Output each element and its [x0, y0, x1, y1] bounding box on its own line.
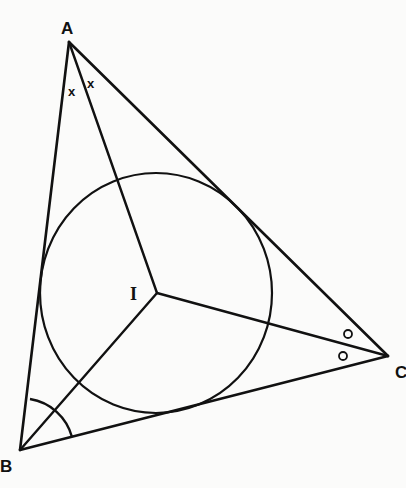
angle-mark-a-1: x [68, 84, 76, 99]
vertex-label-b: B [0, 457, 12, 476]
bisector-b [20, 293, 157, 450]
angle-mark-c-1 [344, 330, 352, 338]
triangle-sides [20, 42, 388, 450]
angle-bisectors [20, 42, 388, 450]
vertex-label-c: C [395, 363, 406, 382]
angle-mark-c-2 [339, 352, 347, 360]
triangle-incircle-diagram: x x A B C I [0, 0, 406, 488]
vertex-label-a: A [61, 19, 73, 38]
bisector-a [69, 42, 157, 293]
incentre-label-i: I [130, 284, 137, 304]
angle-mark-a-2: x [87, 76, 95, 91]
side-ab [20, 42, 69, 450]
